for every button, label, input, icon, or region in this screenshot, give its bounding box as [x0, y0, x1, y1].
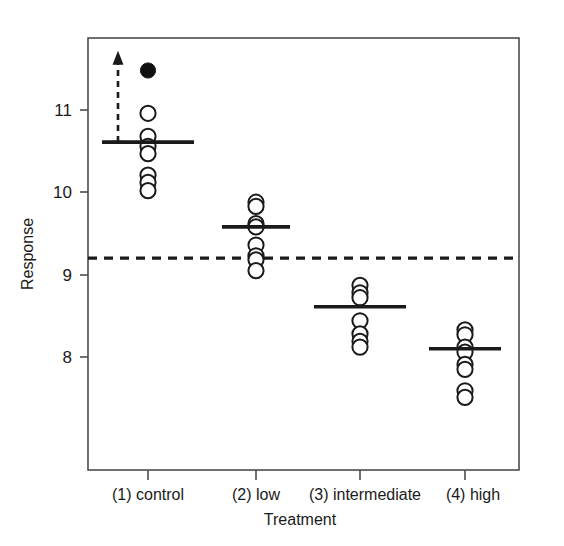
x-tick-label-intermediate: (3) intermediate	[309, 486, 421, 503]
data-point-open	[457, 362, 472, 377]
data-point-open	[140, 146, 155, 161]
data-point-open	[248, 263, 263, 278]
chart-figure: 11 10 9 8 Response (1) control (2) low (…	[0, 0, 564, 546]
data-point-open	[352, 340, 367, 355]
plot-frame	[88, 38, 519, 470]
x-tick-label-control: (1) control	[112, 486, 184, 503]
x-axis-ticks	[148, 470, 465, 480]
dot-plot-svg: 11 10 9 8 Response (1) control (2) low (…	[0, 0, 564, 546]
x-tick-label-low: (2) low	[232, 486, 280, 503]
data-point-filled	[140, 63, 155, 78]
y-tick-label-10: 10	[53, 183, 72, 202]
x-tick-label-high: (4) high	[446, 486, 500, 503]
data-point-open	[457, 390, 472, 405]
y-axis-title: Response	[19, 218, 36, 290]
data-point-open	[352, 290, 367, 305]
data-point-open	[140, 183, 155, 198]
data-point-open	[248, 199, 263, 214]
y-axis-ticks	[80, 110, 88, 357]
data-point-open	[140, 106, 155, 121]
y-tick-label-8: 8	[63, 348, 72, 367]
y-tick-label-11: 11	[54, 101, 72, 120]
y-tick-label-9: 9	[63, 266, 72, 285]
x-axis-title: Treatment	[264, 511, 337, 528]
